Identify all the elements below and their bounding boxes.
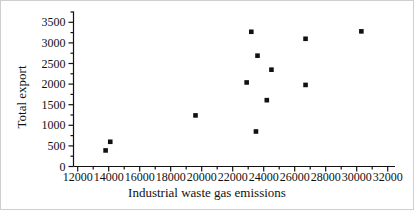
x-axis-title: Industrial waste gas emissions (1, 185, 413, 201)
x-tick-label: 26000 (280, 170, 310, 184)
data-point (359, 29, 364, 34)
y-tick-label: 1500 (42, 98, 66, 112)
y-tick-label: 500 (48, 139, 66, 153)
data-point (269, 67, 274, 72)
data-point (303, 36, 308, 41)
plot-canvas: 1200014000160001800020000220002400026000… (1, 1, 414, 210)
x-tick-label: 32000 (373, 170, 403, 184)
screenshot-root: 1200014000160001800020000220002400026000… (0, 0, 414, 210)
x-tick-label: 14000 (94, 170, 124, 184)
x-tick-label: 12000 (63, 170, 93, 184)
data-point (249, 29, 254, 34)
data-point (103, 148, 108, 153)
y-tick-label: 1000 (42, 118, 66, 132)
scatter-chart: 1200014000160001800020000220002400026000… (1, 1, 413, 209)
data-point (303, 83, 308, 88)
data-point (108, 139, 113, 144)
y-axis-title: Total export (14, 42, 30, 152)
y-tick-label: 0 (60, 160, 66, 174)
y-tick-label: 3500 (42, 15, 66, 29)
x-tick-label: 24000 (249, 170, 279, 184)
y-tick-label: 2500 (42, 57, 66, 71)
y-tick-label: 2000 (42, 77, 66, 91)
data-point (244, 80, 249, 85)
x-tick-label: 20000 (187, 170, 217, 184)
x-tick-label: 16000 (125, 170, 155, 184)
x-tick-label: 30000 (342, 170, 372, 184)
x-tick-label: 22000 (218, 170, 248, 184)
data-point (193, 113, 198, 118)
y-tick-label: 3000 (42, 36, 66, 50)
x-tick-label: 28000 (311, 170, 341, 184)
data-point (255, 53, 260, 58)
x-tick-label: 18000 (156, 170, 186, 184)
data-point (254, 129, 259, 134)
data-point (265, 98, 270, 103)
